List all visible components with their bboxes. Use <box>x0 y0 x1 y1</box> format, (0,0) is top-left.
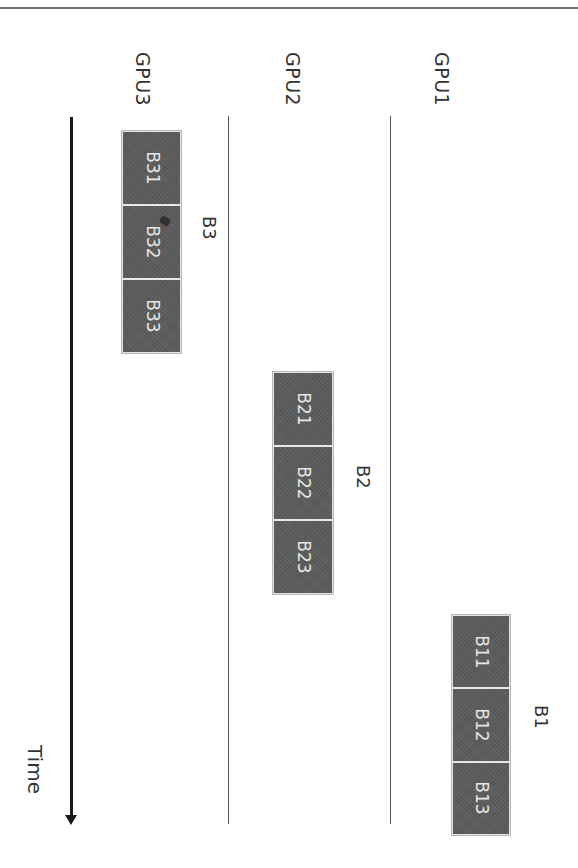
block-b31: B31 <box>123 132 180 206</box>
group-label-b3: B3 <box>200 216 218 240</box>
time-axis-arrow <box>70 117 73 817</box>
lane-label-gpu3: GPU3 <box>133 52 152 106</box>
lane-divider-gpu3-gpu2 <box>228 116 229 824</box>
group-label-b1: B1 <box>532 705 550 729</box>
arrow-down-icon <box>65 815 77 825</box>
block-b33: B33 <box>123 280 180 352</box>
block-label: B32 <box>143 225 160 258</box>
block-label: B21 <box>295 392 312 425</box>
top-rule <box>0 7 578 9</box>
block-label: B33 <box>143 299 160 332</box>
lane-label-gpu2: GPU2 <box>283 52 302 106</box>
block-group-b2: B21 B22 B23 <box>272 371 334 595</box>
time-axis-label: Time <box>25 745 45 794</box>
group-label-b2: B2 <box>354 465 372 489</box>
block-b23: B23 <box>274 521 332 593</box>
block-group-b1: B11 B12 B13 <box>451 614 511 836</box>
block-label: B23 <box>295 540 312 573</box>
block-b11: B11 <box>453 616 509 689</box>
block-b21: B21 <box>274 373 332 447</box>
block-label: B22 <box>295 466 312 499</box>
block-b13: B13 <box>453 763 509 834</box>
block-b12: B12 <box>453 689 509 762</box>
block-label: B31 <box>143 151 160 184</box>
block-b32: B32 <box>123 206 180 280</box>
block-group-b3: B31 B32 B33 <box>121 130 182 354</box>
lane-label-gpu1: GPU1 <box>432 52 451 106</box>
block-label: B13 <box>473 782 490 815</box>
lane-divider-gpu2-gpu1 <box>390 116 391 824</box>
block-label: B11 <box>473 635 490 668</box>
block-b22: B22 <box>274 447 332 521</box>
block-label: B12 <box>473 708 490 741</box>
